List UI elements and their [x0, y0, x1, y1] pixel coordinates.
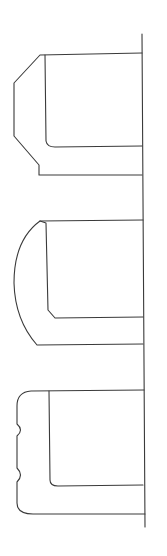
curved-profile-outer [14, 220, 143, 345]
curved-profile-inner [40, 221, 143, 318]
chamfered-profile-inner [45, 55, 142, 147]
chamfered-profile [14, 53, 142, 175]
curved-profile [14, 220, 143, 345]
notched-profile-inner [49, 391, 143, 486]
notched-profile [17, 390, 145, 514]
chamfered-profile-outer [14, 53, 142, 175]
notched-profile-outer [17, 390, 145, 514]
profile-diagram [0, 0, 167, 556]
diagram-canvas [0, 0, 167, 556]
baseline-wall [142, 34, 145, 527]
